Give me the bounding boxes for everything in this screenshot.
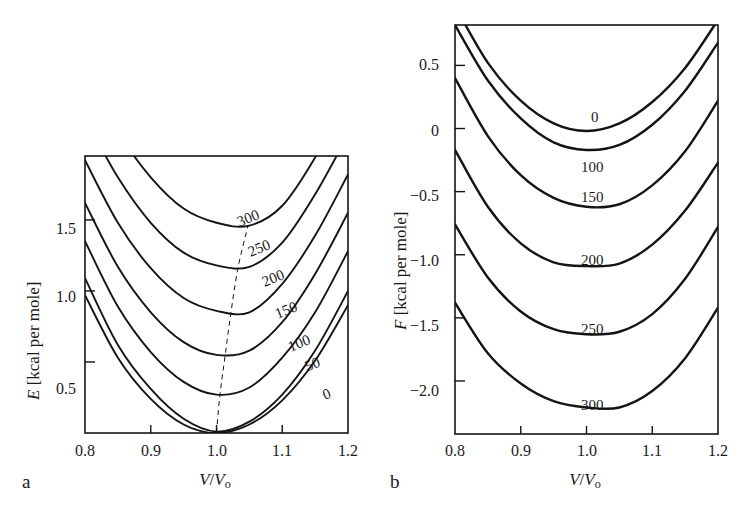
plot-frame: [85, 156, 348, 433]
panel-a: a E [kcal per mole] 0.5 1.0 1.5 0.8 0.9 …: [0, 0, 377, 522]
locus-of-minima-dashed-line: [217, 226, 249, 433]
curve-150: [85, 203, 348, 356]
panel-b: b F [kcal per mole] 0.5 0 −0.5 −1.0 −1.5…: [377, 0, 754, 522]
panel-b-plot-area: [377, 0, 754, 522]
curve-200: [85, 160, 348, 314]
curve-200: [455, 150, 718, 266]
curve-300: [455, 303, 718, 409]
plot-frame: [455, 25, 718, 434]
curve-250: [455, 224, 718, 334]
curve-100: [85, 241, 348, 395]
figure-root: a E [kcal per mole] 0.5 1.0 1.5 0.8 0.9 …: [0, 0, 754, 522]
panel-a-plot-area: [0, 0, 377, 522]
